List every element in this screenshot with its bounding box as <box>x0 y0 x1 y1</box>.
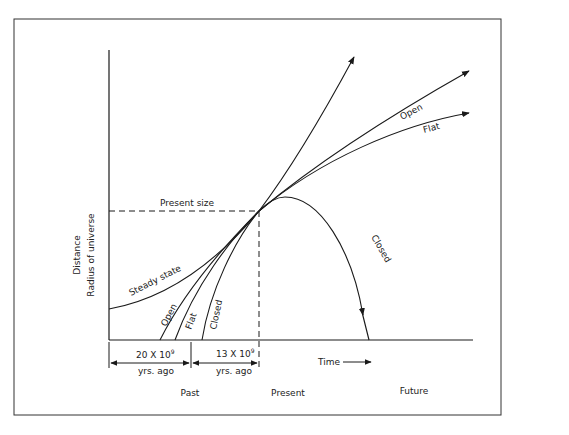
steady-state-label: Steady state <box>127 263 183 298</box>
interval-13-value: 13 X 109 <box>216 347 255 359</box>
steady-state-curve <box>109 57 354 309</box>
interval-13-unit: yrs. ago <box>216 366 253 376</box>
past-label: Past <box>181 388 200 398</box>
open-past-label: Open <box>159 302 179 328</box>
y-axis-label-radius: Radius of universe <box>86 213 96 297</box>
closed-curve-future <box>285 197 363 315</box>
present-label: Present <box>271 388 305 398</box>
closed-future-label: Closed <box>369 233 393 264</box>
present-size-label: Present size <box>160 198 215 208</box>
universe-expansion-diagram: Distance Radius of universe Present size… <box>0 0 569 435</box>
closed-curve-end <box>362 312 369 340</box>
future-label: Future <box>400 386 429 396</box>
interval-20-unit: yrs. ago <box>138 366 175 376</box>
time-label: Time <box>317 357 340 367</box>
y-axis-label-distance: Distance <box>72 235 82 275</box>
interval-20-value: 20 X 109 <box>136 348 175 360</box>
